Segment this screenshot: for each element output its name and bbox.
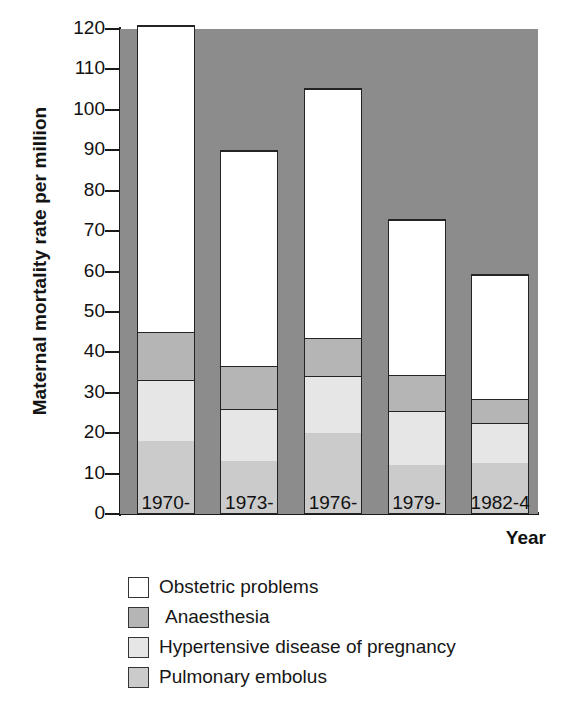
y-tick-label: 120 bbox=[33, 18, 105, 37]
plot-area bbox=[120, 29, 538, 514]
bar-segment bbox=[138, 332, 194, 380]
legend-swatch bbox=[128, 577, 149, 598]
y-tick-mark bbox=[105, 230, 120, 232]
stacked-bar bbox=[304, 88, 362, 514]
y-tick-mark bbox=[105, 190, 120, 192]
y-tick-label: 20 bbox=[33, 422, 105, 441]
y-tick-label: 10 bbox=[33, 463, 105, 482]
stacked-bar bbox=[471, 274, 529, 514]
legend-label: Obstetric problems bbox=[159, 576, 318, 598]
legend-swatch bbox=[128, 637, 149, 658]
legend-item: Obstetric problems bbox=[128, 572, 456, 602]
bar-segment bbox=[138, 380, 194, 440]
bar-segment bbox=[389, 375, 445, 411]
bar-segment bbox=[305, 338, 361, 376]
y-tick-mark bbox=[105, 68, 120, 70]
bar-segment bbox=[221, 366, 277, 408]
bar-segment bbox=[138, 26, 194, 332]
legend-item: Pulmonary embolus bbox=[128, 662, 456, 692]
legend-label: Anaesthesia bbox=[165, 606, 270, 628]
bar-segment bbox=[472, 399, 528, 423]
legend-label: Hypertensive disease of pregnancy bbox=[159, 636, 456, 658]
legend-item: Anaesthesia bbox=[128, 602, 456, 632]
y-tick-mark bbox=[105, 432, 120, 434]
y-tick-mark bbox=[105, 271, 120, 273]
bar-segment bbox=[472, 275, 528, 399]
bar-segment bbox=[221, 151, 277, 366]
legend-swatch bbox=[128, 607, 149, 628]
y-tick-label: 70 bbox=[33, 220, 105, 239]
y-tick-label: 30 bbox=[33, 382, 105, 401]
chart-figure: Maternal mortality rate per million 0102… bbox=[0, 0, 568, 717]
y-tick-label: 50 bbox=[33, 301, 105, 320]
y-tick-mark bbox=[105, 473, 120, 475]
y-tick-mark bbox=[105, 109, 120, 111]
y-tick-mark bbox=[105, 351, 120, 353]
y-tick-label: 80 bbox=[33, 180, 105, 199]
x-tick-label: 1982-4 bbox=[440, 492, 560, 514]
y-tick-label: 0 bbox=[33, 503, 105, 522]
y-tick-label: 90 bbox=[33, 139, 105, 158]
legend-label: Pulmonary embolus bbox=[159, 666, 327, 688]
bar-segment bbox=[389, 220, 445, 375]
y-tick-label: 40 bbox=[33, 341, 105, 360]
bar-segment bbox=[305, 89, 361, 338]
bar-segment bbox=[389, 411, 445, 465]
bar-segment bbox=[221, 409, 277, 461]
y-tick-mark bbox=[105, 28, 120, 30]
stacked-bar bbox=[220, 150, 278, 514]
chart-legend: Obstetric problemsAnaesthesiaHypertensiv… bbox=[128, 572, 456, 692]
y-tick-label: 60 bbox=[33, 261, 105, 280]
stacked-bar bbox=[137, 25, 195, 514]
y-tick-mark bbox=[105, 311, 120, 313]
x-axis-title: Year bbox=[506, 527, 546, 549]
y-tick-label: 100 bbox=[33, 99, 105, 118]
stacked-bar bbox=[388, 219, 446, 514]
bar-segment bbox=[472, 423, 528, 463]
legend-swatch bbox=[128, 667, 149, 688]
y-tick-label: 110 bbox=[33, 58, 105, 77]
y-tick-mark bbox=[105, 149, 120, 151]
bar-segment bbox=[305, 376, 361, 432]
y-tick-mark bbox=[105, 392, 120, 394]
legend-item: Hypertensive disease of pregnancy bbox=[128, 632, 456, 662]
